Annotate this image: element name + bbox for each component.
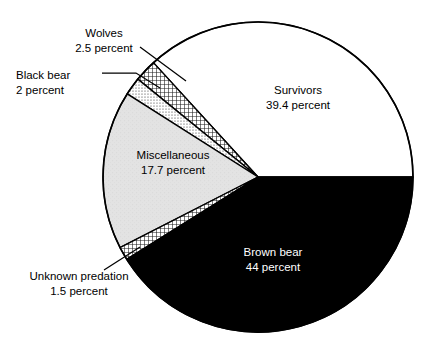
- slice-label-wolves-value: 2.5 percent: [48, 41, 160, 56]
- slice-label-miscellaneous-name: Miscellaneous: [110, 148, 236, 163]
- slice-label-wolves-name: Wolves: [48, 26, 160, 41]
- slice-label-brown-bear-name: Brown bear: [218, 245, 328, 260]
- slice-label-black-bear: Black bear 2 percent: [16, 68, 116, 97]
- slice-label-brown-bear: Brown bear 44 percent: [218, 245, 328, 274]
- slice-label-unknown-predation-value: 1.5 percent: [8, 284, 150, 299]
- slice-label-black-bear-value: 2 percent: [16, 83, 116, 98]
- slice-label-wolves: Wolves 2.5 percent: [48, 26, 160, 55]
- slice-label-unknown-predation-name: Unknown predation: [8, 269, 150, 284]
- slice-label-unknown-predation: Unknown predation 1.5 percent: [8, 269, 150, 298]
- slice-label-brown-bear-value: 44 percent: [218, 260, 328, 275]
- slice-label-survivors-value: 39.4 percent: [238, 98, 358, 113]
- slice-label-survivors: Survivors 39.4 percent: [238, 83, 358, 112]
- pie-chart-figure: Wolves 2.5 percent Black bear 2 percent …: [0, 0, 436, 361]
- slice-label-black-bear-name: Black bear: [16, 68, 116, 83]
- slice-label-survivors-name: Survivors: [238, 83, 358, 98]
- slice-label-miscellaneous-value: 17.7 percent: [110, 163, 236, 178]
- slice-label-miscellaneous: Miscellaneous 17.7 percent: [110, 148, 236, 177]
